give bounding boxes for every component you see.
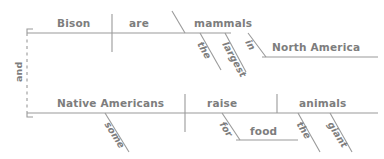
conjunction-top-bracket: [27, 29, 33, 33]
subject-label-native-americans: Native Americans: [57, 98, 164, 109]
verb-label-raise: raise: [207, 98, 237, 109]
sentence-diagram: and Bison are mammals the largest in Nor…: [0, 0, 384, 159]
preposition-object-label-food: food: [250, 126, 277, 137]
clause1-predicate-nominative-slant: [172, 11, 185, 33]
predicate-nominative-label-mammals: mammals: [194, 18, 252, 29]
preposition-object-label-north-america: North America: [272, 42, 360, 53]
verb-label-are: are: [129, 18, 149, 29]
direct-object-label-animals: animals: [299, 98, 346, 109]
conjunction-label-and: and: [14, 61, 24, 82]
subject-label-bison: Bison: [57, 18, 91, 29]
conjunction-bottom-bracket: [27, 113, 33, 117]
